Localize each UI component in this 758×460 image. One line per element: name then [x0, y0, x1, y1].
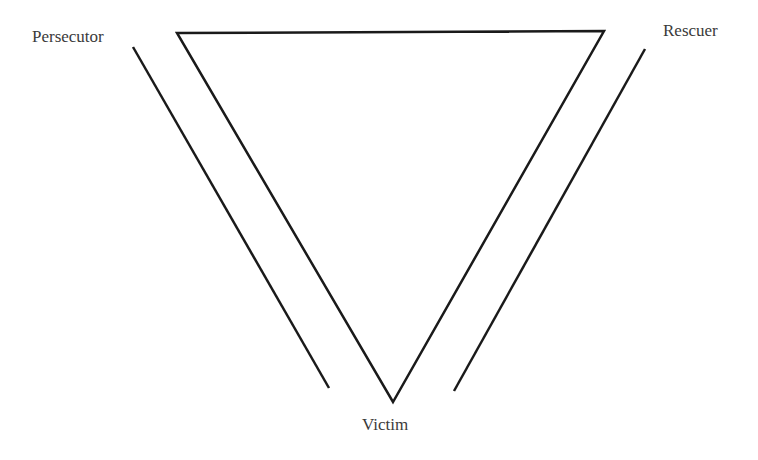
inverted-triangle [177, 31, 604, 402]
label-victim: Victim [362, 415, 408, 435]
left-parallel-line [133, 47, 329, 388]
label-rescuer: Rescuer [663, 21, 718, 41]
right-parallel-line [454, 49, 645, 391]
triangle-diagram [0, 0, 758, 460]
label-persecutor: Persecutor [32, 27, 104, 47]
